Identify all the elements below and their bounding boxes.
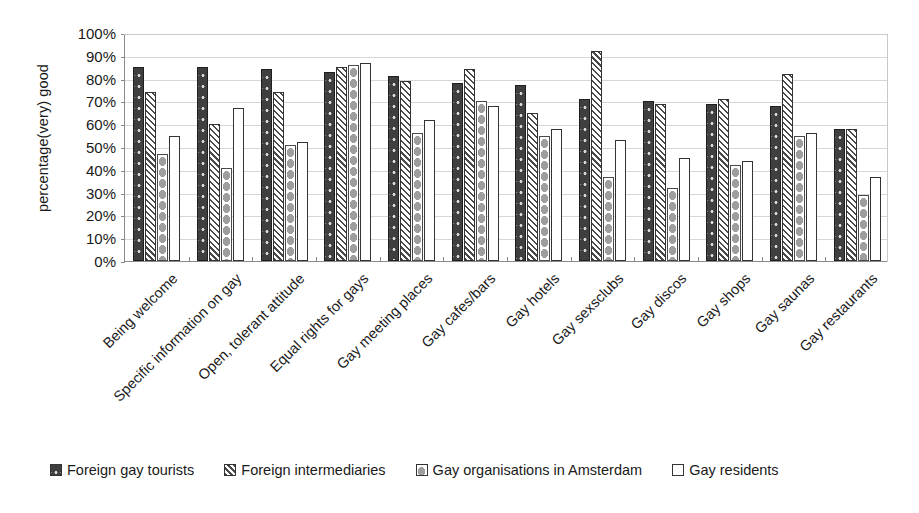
y-axis-tick-label: 100% [44, 26, 116, 42]
y-axis-tick-label: 80% [44, 72, 116, 88]
x-axis-tickmark [189, 257, 190, 261]
bar[interactable] [679, 158, 690, 261]
bar[interactable] [730, 165, 741, 261]
bar-group [125, 34, 189, 261]
bar-group [252, 34, 316, 261]
bar-groups [125, 34, 888, 261]
bar-group [698, 34, 762, 261]
bar[interactable] [603, 177, 614, 261]
bar[interactable] [488, 106, 499, 261]
bar[interactable] [197, 67, 208, 261]
bar[interactable] [209, 124, 220, 261]
bar-group [189, 34, 253, 261]
bar-group [825, 34, 889, 261]
y-axis-tick-label: 10% [44, 231, 116, 247]
bar-chart: percentage(very) good 0%10%20%30%40%50%6… [0, 0, 919, 513]
bar[interactable] [400, 81, 411, 261]
x-axis-tickmark [380, 257, 381, 261]
bar[interactable] [324, 72, 335, 261]
bar[interactable] [273, 92, 284, 261]
legend-label: Foreign intermediaries [241, 462, 385, 478]
legend-swatch-icon [416, 464, 428, 476]
bar[interactable] [794, 136, 805, 261]
bar[interactable] [539, 136, 550, 261]
bar-group [380, 34, 444, 261]
legend-item[interactable]: Foreign gay tourists [50, 462, 194, 478]
bar[interactable] [782, 74, 793, 261]
y-axis-tick-label: 20% [44, 208, 116, 224]
bar-group [762, 34, 826, 261]
legend-swatch-icon [672, 464, 684, 476]
bar[interactable] [285, 145, 296, 261]
y-axis-tick-labels: 0%10%20%30%40%50%60%70%80%90%100% [44, 27, 116, 271]
legend-item[interactable]: Gay organisations in Amsterdam [416, 462, 643, 478]
bar-group [571, 34, 635, 261]
bar[interactable] [706, 104, 717, 261]
bar[interactable] [261, 69, 272, 261]
x-axis-tickmark [507, 257, 508, 261]
legend-label: Foreign gay tourists [67, 462, 194, 478]
bar[interactable] [464, 69, 475, 261]
bar-group [316, 34, 380, 261]
bar[interactable] [527, 113, 538, 261]
bar[interactable] [133, 67, 144, 261]
bar[interactable] [348, 65, 359, 261]
bar[interactable] [870, 177, 881, 261]
bar[interactable] [412, 133, 423, 261]
bar[interactable] [297, 142, 308, 261]
x-axis-tickmark [443, 257, 444, 261]
bar[interactable] [806, 133, 817, 261]
bar[interactable] [846, 129, 857, 261]
legend-item[interactable]: Gay residents [672, 462, 778, 478]
bar[interactable] [643, 101, 654, 261]
legend-item[interactable]: Foreign intermediaries [224, 462, 385, 478]
bar[interactable] [169, 136, 180, 261]
bar[interactable] [221, 168, 232, 261]
y-axis-tick-label: 50% [44, 140, 116, 156]
x-axis-tickmark [634, 257, 635, 261]
bar-group [443, 34, 507, 261]
legend-label: Gay organisations in Amsterdam [433, 462, 643, 478]
bar-group [634, 34, 698, 261]
bar[interactable] [476, 101, 487, 261]
x-axis-tickmark [252, 257, 253, 261]
bar[interactable] [551, 129, 562, 261]
bar[interactable] [424, 120, 435, 261]
y-axis-tick-label: 30% [44, 186, 116, 202]
bar[interactable] [667, 188, 678, 261]
bar[interactable] [515, 85, 526, 261]
bar[interactable] [858, 195, 869, 261]
bar[interactable] [655, 104, 666, 261]
x-axis-tickmark [316, 257, 317, 261]
y-axis-tick-label: 90% [44, 49, 116, 65]
bar[interactable] [157, 154, 168, 261]
y-axis-tick-label: 0% [44, 254, 116, 270]
y-axis-tick-label: 60% [44, 117, 116, 133]
legend-swatch-icon [224, 464, 236, 476]
bar[interactable] [718, 99, 729, 261]
bar[interactable] [591, 51, 602, 261]
bar[interactable] [336, 67, 347, 261]
bar[interactable] [233, 108, 244, 261]
bar[interactable] [388, 76, 399, 261]
bar[interactable] [615, 140, 626, 261]
bar[interactable] [145, 92, 156, 261]
legend-label: Gay residents [689, 462, 778, 478]
bar[interactable] [770, 106, 781, 261]
bar[interactable] [834, 129, 845, 261]
x-axis-tickmark [698, 257, 699, 261]
y-axis-tick-label: 40% [44, 163, 116, 179]
x-axis-tickmark [825, 257, 826, 261]
x-axis-tickmark [571, 257, 572, 261]
bar[interactable] [360, 63, 371, 261]
y-axis-tick-label: 70% [44, 94, 116, 110]
legend-swatch-icon [50, 464, 62, 476]
x-axis-tickmark [762, 257, 763, 261]
bar[interactable] [452, 83, 463, 261]
bar-group [507, 34, 571, 261]
chart-legend: Foreign gay touristsForeign intermediari… [50, 462, 880, 478]
bar[interactable] [742, 161, 753, 261]
bar[interactable] [579, 99, 590, 261]
plot-area [124, 34, 888, 262]
y-axis-tickmark [121, 262, 125, 263]
